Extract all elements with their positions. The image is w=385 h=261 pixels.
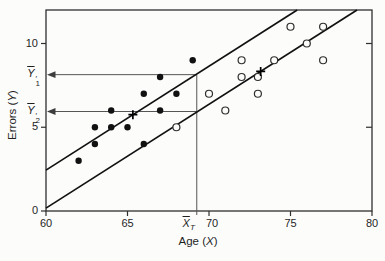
x-axis-variable: X bbox=[206, 235, 214, 247]
x-tick-label: 65 bbox=[114, 217, 142, 229]
data-point-open bbox=[320, 23, 327, 30]
data-point-filled bbox=[157, 74, 163, 80]
x-axis-title-text: Age ( bbox=[178, 235, 206, 247]
regression-line bbox=[46, 10, 357, 208]
y-tick-label: 0 bbox=[8, 204, 38, 216]
x-tick-label: 75 bbox=[277, 217, 305, 229]
data-point-filled bbox=[157, 107, 163, 113]
data-point-filled bbox=[141, 91, 147, 97]
plot-frame bbox=[46, 10, 372, 211]
data-point-filled bbox=[108, 124, 114, 130]
arrowhead-left-icon bbox=[47, 71, 56, 78]
data-point-filled bbox=[92, 141, 98, 147]
data-point-open bbox=[206, 90, 213, 97]
x-tick-label: 60 bbox=[32, 217, 60, 229]
grand-mean-x-label: XT bbox=[169, 217, 195, 229]
data-point-filled bbox=[92, 124, 98, 130]
data-point-filled bbox=[141, 141, 147, 147]
data-point-open bbox=[287, 23, 294, 30]
y-axis-variable: Y bbox=[6, 94, 18, 102]
data-point-open bbox=[271, 57, 278, 64]
arrowhead-left-icon bbox=[47, 108, 56, 115]
y-tick-label: 5 bbox=[8, 120, 38, 132]
data-point-filled bbox=[124, 124, 130, 130]
adjusted-mean-1-label: Y′1 bbox=[6, 67, 40, 87]
x-tick-label: 70 bbox=[198, 217, 226, 229]
data-point-filled bbox=[108, 107, 114, 113]
data-point-open bbox=[303, 40, 310, 47]
y-tick-label: 10 bbox=[8, 37, 38, 49]
data-point-open bbox=[320, 57, 327, 64]
data-point-open bbox=[222, 107, 229, 114]
ancova-scatter-figure: Errors (Y) Age (X) Y′1 Y′2 XT 6065707580… bbox=[0, 0, 385, 261]
x-axis-title: Age (X) bbox=[158, 235, 238, 247]
data-point-filled bbox=[190, 57, 196, 63]
data-point-filled bbox=[75, 158, 81, 164]
x-tick-label: 80 bbox=[358, 217, 385, 229]
data-point-open bbox=[238, 74, 245, 81]
data-point-open bbox=[254, 90, 261, 97]
data-point-open bbox=[173, 124, 180, 131]
data-point-filled bbox=[173, 91, 179, 97]
data-point-open bbox=[238, 57, 245, 64]
